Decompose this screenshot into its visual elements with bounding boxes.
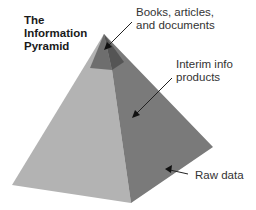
label-bottom: Raw data [195, 169, 244, 182]
arrow-top [108, 22, 132, 46]
title-line-2: Information [24, 27, 87, 40]
label-middle: Interim info products [176, 58, 233, 84]
label-middle-line-2: products [176, 71, 233, 84]
diagram-title: The Information Pyramid [24, 14, 87, 53]
label-top: Books, articles, and documents [136, 6, 215, 32]
title-line-1: The [24, 14, 87, 27]
label-top-line-1: Books, articles, [136, 6, 215, 19]
title-line-3: Pyramid [24, 40, 87, 53]
label-middle-line-1: Interim info [176, 58, 233, 71]
label-top-line-2: and documents [136, 19, 215, 32]
